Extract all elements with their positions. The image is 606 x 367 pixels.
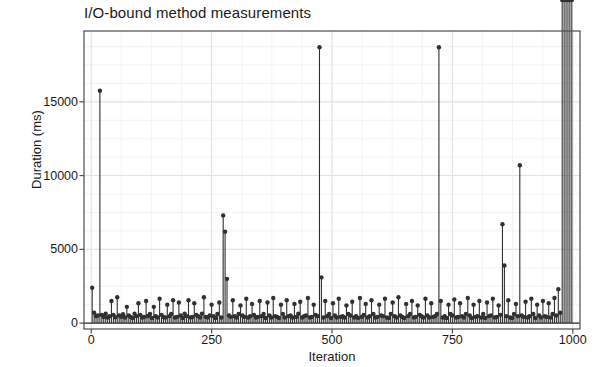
chart-figure: I/O-bound method measurements Duration (…: [0, 0, 606, 367]
stem-plot-area: [0, 0, 606, 367]
